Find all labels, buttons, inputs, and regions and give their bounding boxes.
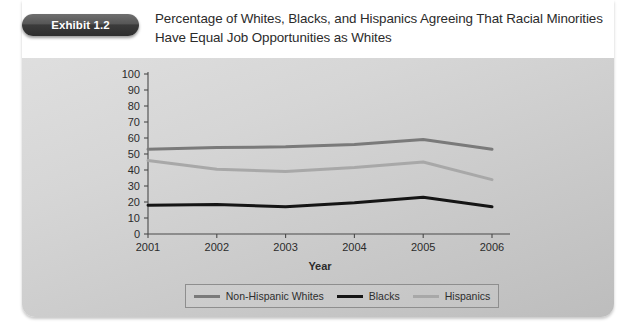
legend-label: Non-Hispanic Whites — [226, 290, 324, 302]
y-axis-tick-label: 30 — [128, 180, 140, 192]
y-axis-tick-label: 80 — [128, 100, 140, 112]
x-axis-tick-label: 2001 — [136, 241, 160, 253]
legend-item[interactable]: Non-Hispanic Whites — [194, 290, 324, 302]
y-axis-tick-label: 90 — [128, 84, 140, 96]
legend-item[interactable]: Hispanics — [413, 290, 491, 302]
y-axis-tick-label: 40 — [128, 164, 140, 176]
exhibit-title-line-1: Percentage of Whites, Blacks, and Hispan… — [155, 10, 617, 29]
y-axis-tick-label: 20 — [128, 196, 140, 208]
exhibit-header: Exhibit 1.2 Percentage of Whites, Blacks… — [22, 10, 622, 58]
chart-container: 0102030405060708090100200120022003200420… — [22, 58, 614, 317]
y-axis-tick-label: 0 — [134, 228, 140, 240]
y-axis-tick-label: 50 — [128, 148, 140, 160]
legend-swatch-icon — [413, 295, 439, 298]
exhibit-figure: Exhibit 1.2 Percentage of Whites, Blacks… — [0, 0, 636, 334]
legend-item[interactable]: Blacks — [337, 290, 400, 302]
x-axis-tick-label: 2003 — [273, 241, 297, 253]
legend-swatch-icon — [337, 295, 363, 298]
legend-label: Blacks — [369, 290, 400, 302]
exhibit-title: Percentage of Whites, Blacks, and Hispan… — [155, 10, 617, 47]
exhibit-badge-label: Exhibit 1.2 — [51, 19, 110, 31]
exhibit-badge: Exhibit 1.2 — [22, 14, 139, 36]
legend-swatch-icon — [194, 295, 220, 298]
series-line-non-hispanic-whites — [148, 140, 492, 150]
exhibit-title-line-2: Have Equal Job Opportunities as Whites — [155, 29, 617, 48]
legend-label: Hispanics — [445, 290, 491, 302]
y-axis-tick-label: 70 — [128, 116, 140, 128]
line-chart: 0102030405060708090100200120022003200420… — [22, 58, 614, 317]
x-axis-tick-label: 2005 — [411, 241, 435, 253]
x-axis-tick-label: 2002 — [205, 241, 229, 253]
series-line-hispanics — [148, 160, 492, 179]
y-axis-tick-label: 60 — [128, 132, 140, 144]
y-axis-tick-label: 10 — [128, 212, 140, 224]
x-axis-tick-label: 2006 — [480, 241, 504, 253]
chart-legend: Non-Hispanic WhitesBlacksHispanics — [185, 284, 499, 308]
series-line-blacks — [148, 197, 492, 207]
x-axis-tick-label: 2004 — [342, 241, 366, 253]
y-axis-tick-label: 100 — [122, 68, 140, 80]
x-axis-title: Year — [308, 260, 332, 272]
